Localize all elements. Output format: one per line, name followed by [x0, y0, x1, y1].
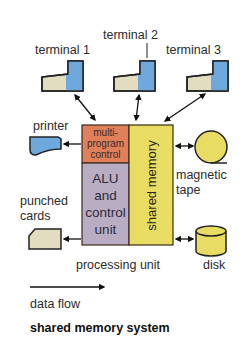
- terminal-1-label: terminal 1: [35, 44, 90, 57]
- mp-line-2: program: [82, 138, 129, 149]
- mp-line-1: multi-: [82, 127, 129, 138]
- alu-line-4: unit: [82, 221, 129, 238]
- alu-line-2: and: [82, 187, 129, 204]
- printer-label: printer: [33, 120, 68, 133]
- punched-cards-line-2: cards: [20, 209, 68, 224]
- punched-cards-label: punched cards: [20, 194, 68, 224]
- magnetic-tape-label: magnetic tape: [176, 168, 227, 198]
- alu-control-label: ALU and control unit: [82, 170, 129, 238]
- multiprogram-control-label: multi- program control: [82, 127, 129, 160]
- data-flow-legend-label: data flow: [30, 298, 80, 311]
- magnetic-tape-icon: [195, 131, 227, 163]
- mp-line-3: control: [82, 149, 129, 160]
- terminal-1-icon: [42, 61, 83, 91]
- terminal-3-label: terminal 3: [166, 44, 221, 57]
- shared-memory-label: shared memory: [144, 136, 159, 236]
- terminal-2-arrow: [136, 95, 139, 120]
- printer-icon: [30, 137, 61, 155]
- magnetic-tape-line-2: tape: [176, 183, 227, 198]
- punched-cards-icon: [29, 229, 61, 249]
- terminal-1-arrow: [75, 95, 95, 120]
- terminal-3-arrow: [165, 94, 205, 121]
- alu-line-3: control: [82, 204, 129, 221]
- punched-cards-line-1: punched: [20, 194, 68, 209]
- terminal-2-label: terminal 2: [103, 29, 158, 42]
- diagram-title: shared memory system: [30, 321, 170, 335]
- terminal-3-icon: [187, 61, 228, 91]
- alu-line-1: ALU: [82, 170, 129, 187]
- processing-unit-label: processing unit: [76, 259, 160, 272]
- disk-icon: [196, 226, 226, 256]
- magnetic-tape-line-1: magnetic: [176, 168, 227, 183]
- disk-label: disk: [203, 259, 225, 272]
- terminal-2-icon: [114, 61, 155, 91]
